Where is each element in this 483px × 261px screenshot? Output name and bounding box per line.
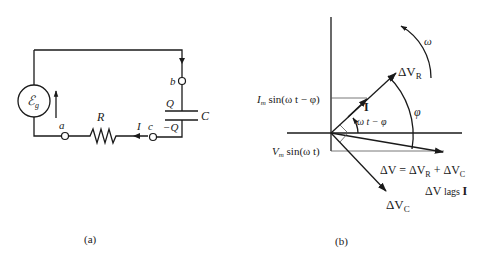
phi-label: φ xyxy=(414,105,421,119)
angle-wt-phi-label: ω t − φ xyxy=(357,116,387,127)
capacitor-label: C xyxy=(201,109,210,123)
delta-v-phasor xyxy=(331,133,443,152)
node-b-label: b xyxy=(170,75,176,87)
caption-b: (b) xyxy=(335,235,348,248)
phi-arc xyxy=(388,76,413,149)
current-arrow xyxy=(133,133,140,139)
sum-equation: ΔV = ΔVR + ΔVC xyxy=(380,163,465,179)
omega-label: ω xyxy=(424,35,432,47)
panel-a-circuit: ℰg a R I c b Q −Q C (a) xyxy=(18,50,210,246)
node-a-label: a xyxy=(59,119,65,131)
delta-vc-label: ΔVC xyxy=(386,197,410,214)
left-wire-bottom xyxy=(34,117,61,136)
panel-b-phasor: ω φ ΔVR I ω t − φ Im sin(ω t − φ) Vm sin… xyxy=(256,17,468,248)
current-direction-arrow-top xyxy=(179,58,185,64)
current-phasor-label: I xyxy=(364,100,369,114)
delta-vc-phasor xyxy=(331,133,386,191)
lag-statement: ΔV lags I xyxy=(425,184,468,198)
emf-label: ℰg xyxy=(27,93,39,110)
node-c-label: c xyxy=(148,120,153,132)
node-c xyxy=(150,134,157,141)
figure-canvas: ℰg a R I c b Q −Q C (a) xyxy=(0,0,483,261)
capacitor-charge-top: Q xyxy=(166,97,174,109)
current-projection-label: Im sin(ω t − φ) xyxy=(256,93,320,107)
delta-vr-label: ΔVR xyxy=(398,64,422,81)
current-label: I xyxy=(136,120,142,132)
caption-a: (a) xyxy=(84,233,97,246)
top-wire xyxy=(34,50,182,78)
node-a xyxy=(62,133,69,140)
node-b xyxy=(179,78,186,85)
capacitor-charge-bottom: −Q xyxy=(163,121,178,133)
voltage-projection-label: Vm sin(ω t) xyxy=(272,145,320,159)
resistor-label: R xyxy=(96,110,105,124)
